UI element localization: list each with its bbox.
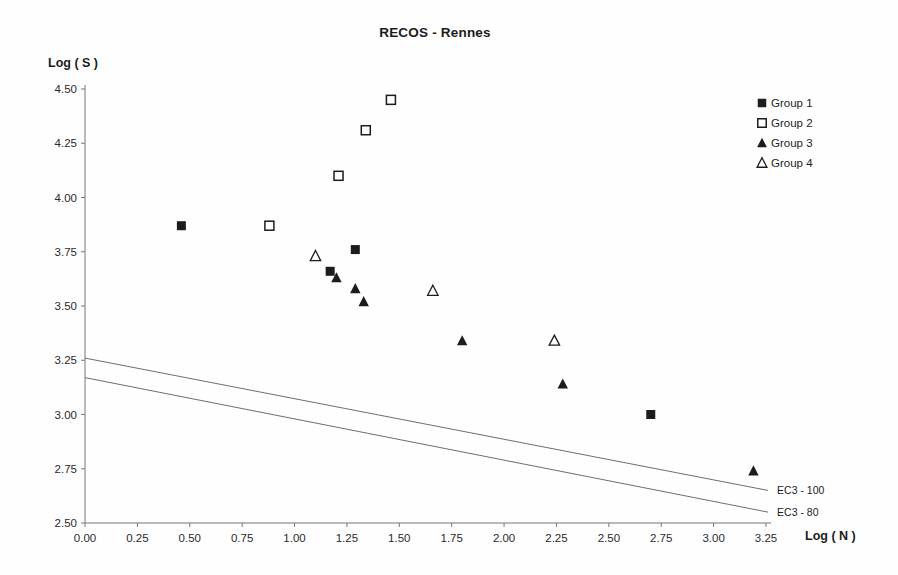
data-point-group-1 <box>177 221 186 230</box>
data-point-group-2 <box>386 95 395 104</box>
x-tick-label: 2.75 <box>650 532 672 544</box>
legend-label-group-1: Group 1 <box>771 97 813 109</box>
x-tick-label: 3.25 <box>755 532 777 544</box>
y-tick-label: 3.00 <box>55 409 77 421</box>
reference-line-label: EC3 - 100 <box>777 484 824 496</box>
data-point-group-2 <box>361 126 370 135</box>
data-point-group-3 <box>457 335 467 345</box>
y-tick-label: 2.50 <box>55 517 77 529</box>
x-tick-label: 1.00 <box>283 532 305 544</box>
data-point-group-3 <box>350 283 360 293</box>
x-tick-label: 1.75 <box>440 532 462 544</box>
legend-label-group-4: Group 4 <box>771 157 813 169</box>
legend-marker-group-1 <box>758 99 767 108</box>
legend-label-group-3: Group 3 <box>771 137 813 149</box>
y-tick-label: 3.50 <box>55 300 77 312</box>
data-point-group-3 <box>558 379 568 389</box>
data-point-group-1 <box>326 267 335 276</box>
data-point-group-4 <box>428 285 438 295</box>
y-tick-label: 3.25 <box>55 354 77 366</box>
x-tick-label: 2.25 <box>545 532 567 544</box>
x-tick-label: 0.00 <box>74 532 96 544</box>
legend-marker-group-4 <box>757 158 767 168</box>
chart-page: RECOS - Rennes Log ( S ) Log ( N ) 4.504… <box>0 0 898 575</box>
x-tick-label: 3.00 <box>702 532 724 544</box>
x-tick-label: 0.25 <box>126 532 148 544</box>
y-tick-label: 4.50 <box>55 83 77 95</box>
data-point-group-3 <box>748 465 758 475</box>
data-point-group-4 <box>549 335 559 345</box>
x-tick-label: 2.50 <box>598 532 620 544</box>
reference-line <box>85 378 768 513</box>
data-point-group-3 <box>358 296 368 306</box>
scatter-plot-canvas: 4.504.254.003.753.503.253.002.752.500.00… <box>0 0 898 575</box>
data-point-group-4 <box>310 251 320 261</box>
y-tick-label: 3.75 <box>55 246 77 258</box>
y-tick-label: 2.75 <box>55 463 77 475</box>
y-tick-label: 4.25 <box>55 137 77 149</box>
x-tick-label: 1.25 <box>336 532 358 544</box>
x-tick-label: 1.50 <box>388 532 410 544</box>
data-point-group-1 <box>351 245 360 254</box>
legend-marker-group-2 <box>758 119 767 128</box>
reference-line <box>85 358 768 490</box>
y-tick-label: 4.00 <box>55 192 77 204</box>
x-tick-label: 0.50 <box>179 532 201 544</box>
data-point-group-2 <box>334 171 343 180</box>
reference-line-label: EC3 - 80 <box>777 506 819 518</box>
legend-label-group-2: Group 2 <box>771 117 813 129</box>
data-point-group-2 <box>265 221 274 230</box>
data-point-group-1 <box>646 410 655 419</box>
x-tick-label: 0.75 <box>231 532 253 544</box>
x-tick-label: 2.00 <box>493 532 515 544</box>
legend-marker-group-3 <box>757 138 767 148</box>
